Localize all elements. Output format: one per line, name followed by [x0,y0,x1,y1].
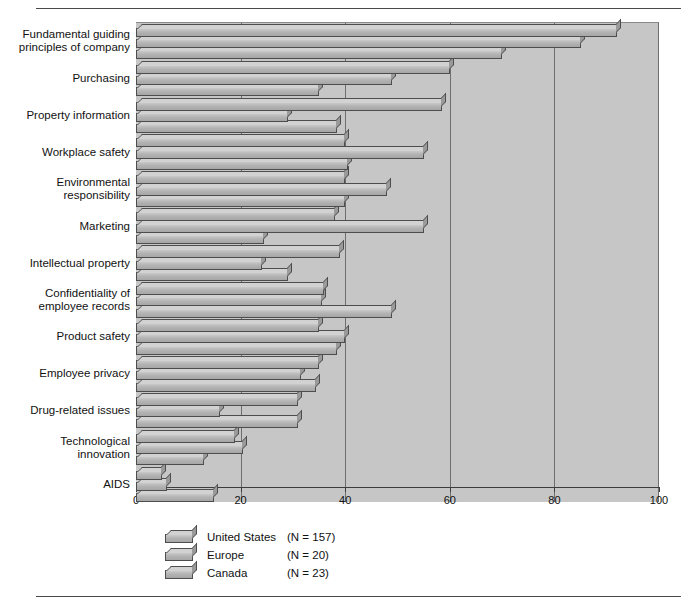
bar [136,76,392,85]
bar [136,224,424,233]
bar-top-face [137,393,302,398]
legend-series-name: Europe [207,549,244,561]
legend-swatch [165,552,193,561]
bar [136,309,392,318]
bar [136,161,348,170]
bar [136,445,243,454]
bar [136,87,319,96]
legend-series-count: (N = 157) [287,531,335,543]
bar-top-face [137,171,349,176]
legend: United States(N = 157)Europe(N = 20)Cana… [165,529,465,583]
bar [136,50,502,59]
legend-swatch-end-face [192,525,197,539]
legend-swatch [165,570,193,579]
top-rule [36,8,681,9]
bar [136,383,316,392]
bar [136,138,345,147]
bar [136,323,319,332]
bar [136,334,345,343]
bar [136,371,301,380]
gridline-40 [345,23,346,502]
bar [136,419,298,428]
bar [136,346,337,355]
legend-series-name: United States [207,531,276,543]
gridline-80 [554,23,555,502]
bar [136,175,345,184]
legend-row: Canada(N = 23) [165,565,465,583]
bar [136,28,617,37]
bar-top-face [137,245,344,250]
bar [136,212,335,221]
bar [136,102,442,111]
x-tick-80 [554,487,555,492]
bar [136,471,162,480]
bar [136,408,220,417]
bar [136,113,288,122]
bar [136,261,262,270]
legend-series-count: (N = 20) [287,549,329,561]
bar [136,493,214,502]
bar-top-face [137,208,339,213]
x-tick-40 [345,487,346,492]
bar [136,198,345,207]
bar-top-face [137,282,328,287]
bar [136,434,235,443]
bar-top-face [137,356,323,361]
x-tick-label-100: 100 [650,494,668,506]
bottom-rule [36,596,681,597]
bar [136,124,337,133]
bar [136,297,322,306]
x-tick-60 [450,487,451,492]
x-tick-100 [659,487,660,492]
x-tick-label-40: 40 [339,494,351,506]
bar [136,235,264,244]
x-tick-label-80: 80 [548,494,560,506]
legend-row: United States(N = 157) [165,529,465,547]
bar-top-face [137,61,454,66]
bar [136,187,387,196]
figure: Fundamental guidingprinciples of company… [0,0,695,606]
legend-series-count: (N = 23) [287,567,329,579]
x-tick-label-20: 20 [234,494,246,506]
bar [136,482,167,491]
bar [136,150,424,159]
bar [136,397,298,406]
bar [136,286,324,295]
bar [136,272,288,281]
bar-top-face [137,98,446,103]
legend-series-name: Canada [207,567,247,579]
bar-top-face [137,134,349,139]
bar-top-face [137,319,323,324]
x-tick-20 [241,487,242,492]
bar-top-face [137,24,621,29]
bar [136,360,319,369]
chart-area [0,14,695,494]
legend-swatch [165,534,193,543]
bar [136,456,204,465]
bar [136,39,581,48]
bar [136,249,340,258]
gridline-60 [450,23,451,502]
bar-top-face [137,430,240,435]
bar [136,65,450,74]
legend-row: Europe(N = 20) [165,547,465,565]
x-tick-label-60: 60 [444,494,456,506]
